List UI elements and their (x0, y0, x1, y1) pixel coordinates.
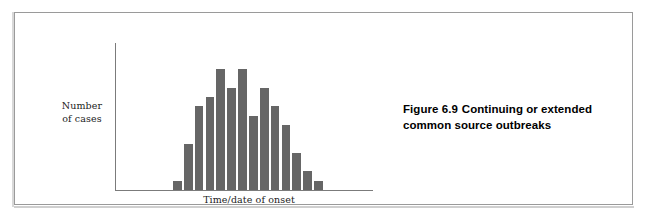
bar-series (173, 60, 325, 190)
bar (260, 88, 269, 190)
bar (249, 116, 258, 190)
bar (216, 69, 225, 190)
epidemic-curve-chart: Number of cases Time/date of onset (15, 13, 395, 220)
figure-number: Figure 6.9 (403, 103, 458, 115)
figure-border: Number of cases Time/date of onset Figur… (14, 12, 633, 205)
y-axis-label-line-2: of cases (53, 112, 111, 125)
bar (173, 181, 182, 190)
bar (238, 69, 247, 190)
figure-caption: Figure 6.9Continuing or extended common … (403, 101, 633, 133)
bar (184, 144, 193, 190)
figure-caption-line-1: Figure 6.9Continuing or extended (403, 101, 633, 117)
bar (292, 153, 301, 190)
bar (282, 125, 291, 190)
bar (271, 106, 280, 190)
bar (314, 181, 323, 190)
y-axis-line (115, 43, 116, 191)
figure-caption-text-1: Continuing or extended (462, 103, 592, 115)
bar (206, 97, 215, 190)
bar (227, 88, 236, 190)
figure-root: Number of cases Time/date of onset Figur… (0, 0, 650, 220)
bar (303, 171, 312, 190)
bar (195, 106, 204, 190)
x-axis-label: Time/date of onset (173, 194, 325, 206)
figure-caption-line-2: common source outbreaks (403, 117, 633, 133)
y-axis-label: Number of cases (53, 99, 111, 125)
y-axis-label-line-1: Number (53, 99, 111, 112)
x-axis-line (115, 190, 373, 191)
